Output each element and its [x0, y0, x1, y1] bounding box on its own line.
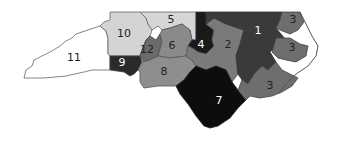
label-district-2: 2	[225, 38, 232, 51]
label-district-4: 4	[198, 38, 205, 51]
label-district-3-south: 3	[267, 79, 274, 92]
label-district-3-mid: 3	[289, 41, 296, 54]
label-district-10: 10	[117, 27, 131, 40]
district-9[interactable]	[110, 56, 142, 76]
label-district-5: 5	[168, 13, 175, 26]
label-district-7: 7	[216, 94, 223, 107]
label-district-3-north: 3	[290, 13, 297, 26]
label-district-6: 6	[169, 39, 176, 52]
label-district-11: 11	[67, 51, 81, 64]
district-map: 11 10 5 9 12 6 4 2 1 3 3 3 8 7	[0, 0, 340, 143]
label-district-9: 9	[119, 56, 126, 69]
label-district-8: 8	[161, 65, 168, 78]
label-district-12: 12	[140, 43, 154, 56]
label-district-1: 1	[255, 24, 262, 37]
